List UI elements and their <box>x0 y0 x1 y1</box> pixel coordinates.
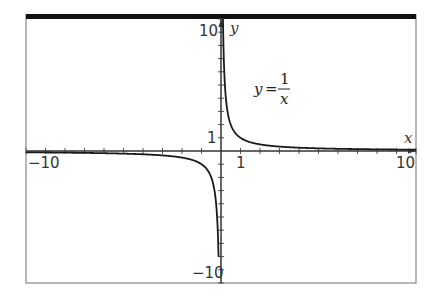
function-plot: −10 1 10 10 1 −10 y x y = 1 x <box>0 0 439 299</box>
x-tick-label-1: 1 <box>236 154 246 172</box>
equation-denominator: x <box>280 90 289 108</box>
y-tick-label-10: 10 <box>199 22 218 40</box>
x-tick-label-neg10: −10 <box>28 154 60 172</box>
x-tick-label-10: 10 <box>396 154 415 172</box>
y-tick-label-neg10: −10 <box>192 264 224 282</box>
equation-numerator: 1 <box>280 70 290 88</box>
y-tick-label-1: 1 <box>207 129 217 147</box>
x-axis-label: x <box>404 129 413 147</box>
equation-equals: = <box>265 80 278 98</box>
equation-lhs: y <box>253 80 263 98</box>
y-axis-label: y <box>229 19 239 37</box>
top-border-bar <box>26 14 416 19</box>
